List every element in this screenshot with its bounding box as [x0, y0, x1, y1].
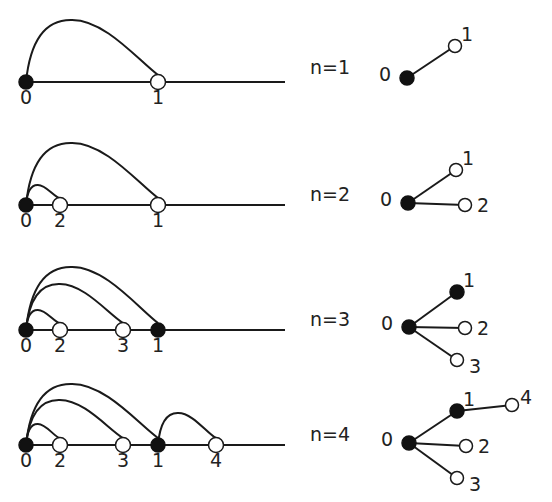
line-node-label-2: 2 — [54, 334, 66, 356]
line-node-label-0: 0 — [20, 86, 32, 108]
tree-edge-0-1 — [409, 411, 457, 443]
line-node-label-1: 1 — [152, 86, 164, 108]
tree-node-label-0: 0 — [379, 63, 391, 85]
tree-node-label-1: 1 — [463, 388, 475, 410]
line-node-label-0: 0 — [20, 449, 32, 471]
line-node-label-2: 2 — [54, 209, 66, 231]
tree-node-1 — [450, 404, 464, 418]
n-label: n=2 — [310, 183, 350, 205]
tree-node-label-0: 0 — [380, 188, 392, 210]
line-node-label-3: 3 — [117, 449, 129, 471]
line-node-label-3: 3 — [117, 334, 129, 356]
tree-node-1 — [449, 40, 462, 53]
tree-node-label-3: 3 — [469, 355, 481, 377]
tree-node-0 — [401, 196, 415, 210]
tree: 01 — [379, 23, 473, 85]
tree-node-1 — [450, 164, 463, 177]
tree-node-label-2: 2 — [477, 317, 489, 339]
arc-0-to-1 — [26, 20, 158, 82]
line-node-label-2: 2 — [54, 449, 66, 471]
tree-edge-0-1 — [407, 46, 455, 78]
panel-n2: 021n=2012 — [19, 143, 489, 231]
tree-edge-0-1 — [409, 292, 457, 327]
arc-diagram: 021 — [19, 143, 285, 231]
tree-node-3 — [451, 472, 464, 485]
tree-node-2 — [459, 322, 472, 335]
tree-node-label-2: 2 — [477, 194, 489, 216]
n-label: n=1 — [310, 56, 350, 78]
arc-1-to-4 — [158, 413, 216, 445]
tree: 01423 — [381, 386, 532, 495]
line-node-label-1: 1 — [152, 334, 164, 356]
tree-node-0 — [402, 436, 416, 450]
arc-0-to-3 — [26, 284, 123, 330]
tree: 012 — [380, 147, 489, 216]
tree-node-label-1: 1 — [461, 23, 473, 45]
tree: 0123 — [381, 269, 489, 377]
tree-node-label-0: 0 — [381, 312, 393, 334]
line-node-label-1: 1 — [152, 449, 164, 471]
tree-node-1 — [450, 285, 464, 299]
tree-edge-0-3 — [409, 327, 457, 360]
panel-n3: 0231n=30123 — [19, 267, 489, 377]
tree-node-4 — [506, 399, 519, 412]
arc-0-to-1 — [26, 143, 158, 205]
tree-node-3 — [451, 354, 464, 367]
tree-node-0 — [402, 320, 416, 334]
panel-n4: 02314n=401423 — [19, 384, 532, 495]
tree-edge-0-1 — [408, 170, 456, 203]
tree-node-2 — [460, 440, 473, 453]
tree-node-label-0: 0 — [381, 428, 393, 450]
tree-edge-0-2 — [409, 443, 466, 446]
arc-diagram: 0231 — [19, 267, 285, 356]
tree-node-0 — [400, 71, 414, 85]
tree-node-label-4: 4 — [520, 386, 532, 408]
n-label: n=3 — [310, 308, 350, 330]
arc-0-to-3 — [26, 400, 123, 445]
line-node-label-0: 0 — [20, 209, 32, 231]
n-label: n=4 — [310, 423, 350, 445]
line-node-label-0: 0 — [20, 334, 32, 356]
tree-node-2 — [459, 199, 472, 212]
line-node-label-4: 4 — [210, 449, 222, 471]
tree-node-label-1: 1 — [462, 147, 474, 169]
tree-edge-0-2 — [408, 203, 465, 205]
line-node-label-1: 1 — [152, 209, 164, 231]
panel-n1: 01n=101 — [19, 20, 473, 108]
tree-growth-diagram: 01n=101021n=20120231n=3012302314n=401423 — [0, 0, 552, 502]
tree-node-label-2: 2 — [478, 435, 490, 457]
tree-edge-0-2 — [409, 327, 465, 328]
tree-node-label-3: 3 — [469, 473, 481, 495]
tree-edge-0-3 — [409, 443, 457, 478]
arc-diagram: 01 — [19, 20, 285, 108]
tree-node-label-1: 1 — [463, 269, 475, 291]
arc-diagram: 02314 — [19, 384, 285, 471]
